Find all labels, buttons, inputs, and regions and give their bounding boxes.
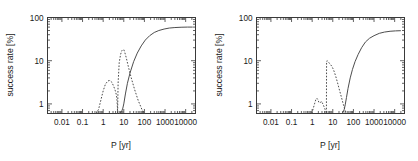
x-axis-title-left: P [yr]: [111, 140, 131, 150]
figure-container: 0.010.1110100100010000 110100 P [yr] suc…: [0, 0, 418, 161]
y-tick-label: 1: [39, 100, 44, 109]
y-tick-label: 100: [30, 14, 44, 23]
y-axis-title-right: success rate [%]: [214, 33, 224, 96]
x-tick-label: 1000: [156, 118, 175, 127]
x-axis-title-right: P [yr]: [320, 140, 340, 150]
data-curves-left: [96, 27, 193, 113]
x-tick-label: 100: [347, 118, 361, 127]
curve-dashed: [312, 61, 347, 114]
plot-svg-right: 0.010.1110100100010000 110100 P [yr] suc…: [209, 0, 418, 161]
x-tick-label: 1: [101, 118, 106, 127]
curve-solid: [342, 31, 401, 114]
x-tick-label: 10: [328, 118, 338, 127]
x-tick-label: 0.01: [263, 118, 279, 127]
y-axis-title-left: success rate [%]: [5, 33, 15, 96]
tick-marks-left: [48, 18, 196, 114]
x-tick-labels-right: 0.010.1110100100010000: [263, 118, 407, 127]
x-tick-labels-left: 0.010.1110100100010000: [54, 118, 198, 127]
x-tick-label: 0.1: [286, 118, 298, 127]
x-tick-label: 10000: [174, 118, 197, 127]
chart-panel-right: 0.010.1110100100010000 110100 P [yr] suc…: [209, 0, 418, 161]
y-tick-label: 10: [243, 57, 253, 66]
x-tick-label: 100: [138, 118, 152, 127]
x-tick-label: 10000: [383, 118, 406, 127]
y-tick-labels-left: 110100: [30, 14, 44, 109]
y-tick-label: 1: [248, 100, 253, 109]
tick-marks-right: [257, 18, 405, 114]
plot-svg-left: 0.010.1110100100010000 110100 P [yr] suc…: [0, 0, 209, 161]
chart-panel-left: 0.010.1110100100010000 110100 P [yr] suc…: [0, 0, 209, 161]
plot-frame-left: [48, 18, 196, 114]
y-tick-label: 10: [34, 57, 44, 66]
plot-frame-right: [257, 18, 405, 114]
curve-solid: [119, 27, 193, 113]
x-tick-label: 0.01: [54, 118, 70, 127]
y-tick-label: 100: [239, 14, 253, 23]
y-tick-labels-right: 110100: [239, 14, 253, 109]
data-curves-right: [312, 31, 401, 114]
x-tick-label: 1: [310, 118, 315, 127]
curve-dashed: [96, 49, 145, 113]
x-tick-label: 10: [119, 118, 129, 127]
x-tick-label: 0.1: [77, 118, 89, 127]
x-tick-label: 1000: [365, 118, 384, 127]
